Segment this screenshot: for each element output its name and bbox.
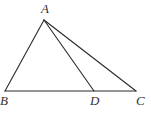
vertex-label-c: C: [136, 93, 145, 108]
vertex-label-d: D: [89, 93, 100, 108]
segment-ab: [5, 20, 44, 91]
segment-ad: [44, 20, 94, 91]
triangle-diagram: A B D C: [0, 0, 151, 114]
vertex-label-a: A: [40, 1, 49, 16]
segment-ac: [44, 20, 136, 91]
vertex-label-b: B: [0, 93, 8, 108]
